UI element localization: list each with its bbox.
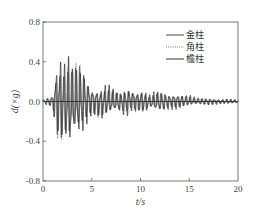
x-tick-label: 10 <box>136 184 146 194</box>
legend-label: 角柱 <box>186 41 204 52</box>
x-tick-label: 5 <box>90 184 95 194</box>
y-tick-label: -0.8 <box>26 176 41 186</box>
x-axis: 0 5 10 15 20 <box>41 178 243 194</box>
acceleration-time-history-chart: 0.8 0.4 0.0 -0.4 -0.8 0 5 10 15 20 t/s d… <box>0 0 258 216</box>
x-tick-label: 15 <box>185 184 195 194</box>
legend-label: 金柱 <box>186 29 204 40</box>
y-tick-label: 0.4 <box>29 57 41 67</box>
y-tick-label: -0.4 <box>26 136 41 146</box>
y-tick-label: 0.0 <box>29 97 41 107</box>
waveform-traces <box>43 56 238 140</box>
legend-label: 檐柱 <box>186 53 204 64</box>
x-axis-label: t/s <box>136 196 146 207</box>
legend: 金柱 角柱 檐柱 <box>166 29 204 64</box>
x-tick-label: 20 <box>234 184 244 194</box>
x-tick-label: 0 <box>41 184 46 194</box>
y-tick-label: 0.8 <box>29 17 41 27</box>
y-axis-label: d(×g) <box>9 89 21 113</box>
